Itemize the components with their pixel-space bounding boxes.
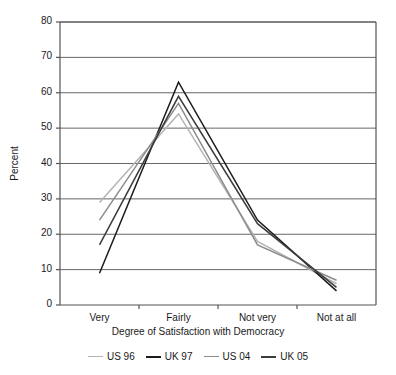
legend-line-swatch: [261, 356, 276, 358]
legend-line-swatch: [88, 356, 103, 357]
legend-item[interactable]: UK 05: [261, 351, 308, 362]
x-axis-title: Degree of Satisfaction with Democracy: [0, 326, 396, 337]
x-tick-label: Not at all: [297, 312, 377, 323]
y-axis-title-label: Percent: [9, 134, 20, 194]
x-tick-label: Fairly: [139, 312, 219, 323]
legend-line-swatch: [204, 356, 219, 357]
series-line: [100, 96, 337, 287]
line-chart: Percent 01020304050607080 VeryFairlyNot …: [0, 0, 396, 375]
y-tick-label: 40: [26, 157, 52, 168]
x-tick-label: Not very: [218, 312, 298, 323]
legend-label: UK 05: [280, 351, 308, 362]
series-line: [100, 103, 337, 280]
y-tick-label: 0: [26, 298, 52, 309]
y-axis-title: Percent: [6, 134, 20, 214]
x-tick-label: Very: [60, 312, 140, 323]
y-tick-label: 60: [26, 86, 52, 97]
legend-line-swatch: [146, 356, 161, 358]
y-tick-label: 10: [26, 263, 52, 274]
legend-label: UK 97: [165, 351, 193, 362]
y-tick-label: 20: [26, 227, 52, 238]
legend-label: US 96: [107, 351, 135, 362]
legend-item[interactable]: UK 97: [146, 351, 193, 362]
gridlines: [60, 22, 376, 270]
legend-item[interactable]: US 04: [204, 351, 251, 362]
y-tick-label: 50: [26, 121, 52, 132]
chart-legend: US 96UK 97US 04UK 05: [0, 351, 396, 362]
legend-item[interactable]: US 96: [88, 351, 135, 362]
legend-label: US 04: [223, 351, 251, 362]
y-tick-label: 80: [26, 15, 52, 26]
series-lines: [100, 82, 337, 291]
y-tick-label: 30: [26, 192, 52, 203]
y-tick-label: 70: [26, 50, 52, 61]
